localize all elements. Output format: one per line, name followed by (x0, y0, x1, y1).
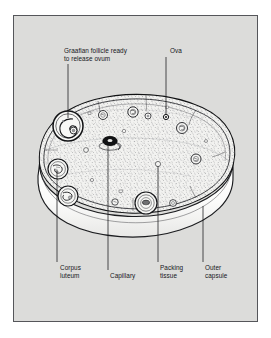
label-capillary: Capillary (110, 272, 158, 280)
label-ova: Ova (170, 47, 210, 55)
corpus-luteum-lower (58, 186, 78, 206)
packing-tissue-follicle (135, 192, 157, 214)
label-outer-capsule: Outer capsule (205, 264, 251, 280)
ova-marker (163, 114, 168, 119)
ovary-diagram-figure: Graafian follicle ready to release ovum … (0, 0, 271, 338)
corpus-luteum-upper (48, 159, 68, 179)
label-packing-tissue: Packing tissue (160, 264, 202, 280)
label-graafian-follicle: Graafian follicle ready to release ovum (64, 47, 168, 63)
label-corpus-luteum: Corpus luteum (60, 264, 104, 280)
